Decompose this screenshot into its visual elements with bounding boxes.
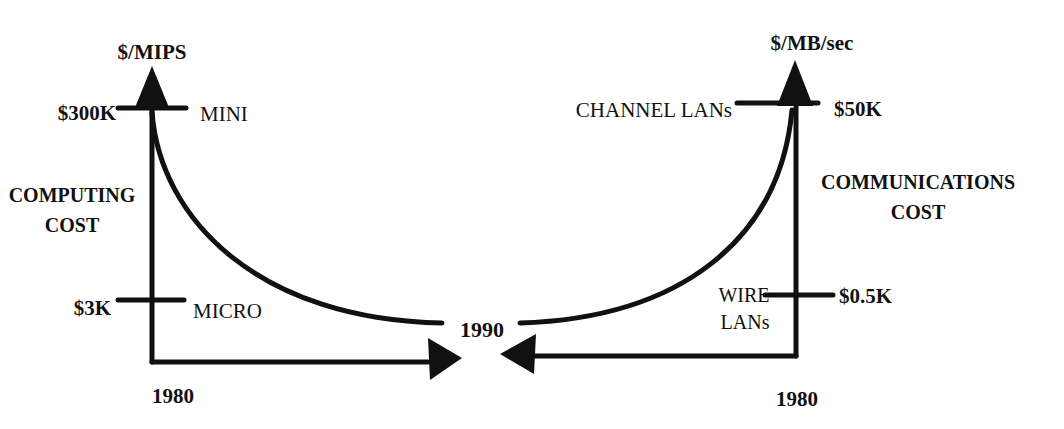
communications-cost-chart: $/MB/sec CHANNEL LANs $50K COMMUNICATION… (500, 31, 1015, 411)
computing-cost-curve (152, 112, 442, 323)
computing-axis-title-line1: COMPUTING (9, 184, 136, 206)
up-arrow-icon (777, 60, 813, 106)
convergence-year: 1990 (460, 317, 504, 342)
communications-low-value: $0.5K (839, 284, 893, 308)
communications-low-label-line2: LANs (721, 311, 770, 333)
left-arrow-icon (500, 334, 536, 374)
computing-start-year: 1980 (152, 384, 194, 408)
cost-convergence-diagram: $/MIPS $300K MINI COMPUTING COST $3K MIC… (0, 0, 1064, 429)
computing-high-value: $300K (58, 101, 117, 125)
communications-high-value: $50K (834, 97, 883, 121)
communications-start-year: 1980 (776, 387, 818, 411)
communications-high-label: CHANNEL LANs (576, 98, 732, 122)
communications-low-label-line1: WIRE (718, 284, 769, 306)
right-arrow-icon (428, 338, 462, 380)
computing-low-value: $3K (74, 296, 112, 320)
computing-axis-unit: $/MIPS (118, 40, 187, 64)
up-arrow-icon (134, 66, 170, 110)
communications-axis-title-line1: COMMUNICATIONS (821, 171, 1015, 193)
communications-axis-unit: $/MB/sec (771, 31, 854, 55)
computing-cost-chart: $/MIPS $300K MINI COMPUTING COST $3K MIC… (9, 40, 462, 408)
communications-axis-title-line2: COST (891, 201, 946, 223)
computing-high-label: MINI (200, 102, 248, 126)
computing-low-label: MICRO (193, 299, 262, 323)
computing-axis-title-line2: COST (45, 214, 100, 236)
